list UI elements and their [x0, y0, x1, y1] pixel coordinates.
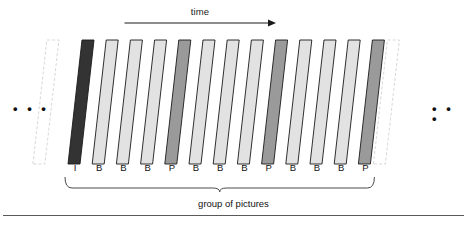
picture-frame [165, 40, 191, 164]
frame-label-b-6: B [212, 162, 228, 174]
frame-face-b-2 [116, 40, 142, 164]
picture-frame [310, 40, 336, 164]
frame-face-p-4 [165, 40, 191, 164]
picture-frame [286, 40, 312, 164]
frame-label-b-1: B [91, 162, 107, 174]
frame-face-b-9 [286, 40, 312, 164]
frame-face-b-6 [213, 40, 239, 164]
gop-caption: group of pictures [0, 198, 467, 210]
frame-label-b-11: B [333, 162, 349, 174]
picture-frame [334, 40, 360, 164]
time-axis: time [124, 6, 276, 30]
frame-label-p-4: P [164, 162, 180, 174]
ellipsis-left: • • • [13, 104, 49, 114]
bottom-rule [3, 215, 464, 216]
frame-label-p-12: P [357, 162, 373, 174]
picture-frame [262, 40, 288, 164]
frame-label-b-2: B [115, 162, 131, 174]
frame-face-p-8 [262, 40, 288, 164]
frame-label-b-3: B [140, 162, 156, 174]
frame-face-i-0 [68, 40, 94, 164]
time-arrow-icon [124, 17, 276, 29]
frame-label-b-7: B [236, 162, 252, 174]
frame-face-b-1 [92, 40, 118, 164]
frame-label-b-10: B [309, 162, 325, 174]
frame-face-b-11 [334, 40, 360, 164]
frame-face-b-10 [310, 40, 336, 164]
frame-stack [0, 32, 467, 172]
frame-label-p-8: P [261, 162, 277, 174]
frame-labels: IBBBPBBBPBBBP [0, 162, 467, 176]
frame-stack-svg [0, 32, 467, 172]
frame-label-b-9: B [285, 162, 301, 174]
frame-face-b-5 [189, 40, 215, 164]
frame-face-b-3 [141, 40, 167, 164]
picture-frame [116, 40, 142, 164]
gop-brace [0, 176, 467, 198]
gop-brace-icon [0, 176, 467, 198]
gop-figure: time • • • • • • IBBBPBBBPBBBP group of … [0, 0, 467, 226]
picture-frame [237, 40, 263, 164]
brace-path [65, 177, 374, 192]
picture-frame [189, 40, 215, 164]
picture-frame [213, 40, 239, 164]
time-axis-label: time [124, 6, 276, 17]
picture-frame [92, 40, 118, 164]
frame-label-b-5: B [188, 162, 204, 174]
frame-label-i-0: I [67, 162, 83, 174]
ellipsis-right: • • • [432, 104, 467, 124]
picture-frame [141, 40, 167, 164]
picture-frame [68, 40, 94, 164]
frame-face-b-7 [237, 40, 263, 164]
